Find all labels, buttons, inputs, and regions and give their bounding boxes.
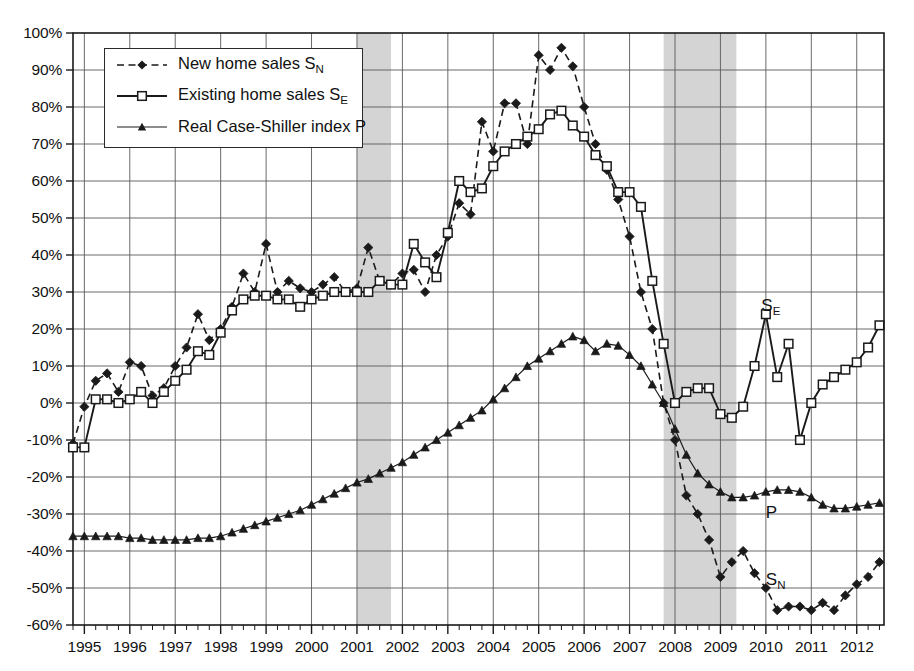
data-point-marker [444, 428, 452, 436]
data-point-marker [216, 328, 225, 337]
data-point-marker [580, 336, 588, 344]
data-point-marker [69, 443, 78, 452]
data-point-marker [182, 365, 191, 374]
data-point-marker [262, 291, 271, 300]
data-point-marker [863, 572, 872, 581]
data-point-marker [319, 291, 328, 300]
data-point-marker [693, 384, 702, 393]
annot-p: P [766, 503, 777, 523]
data-point-marker [545, 65, 554, 74]
data-point-marker [875, 321, 884, 330]
data-point-marker [818, 380, 827, 389]
data-point-marker [353, 288, 362, 297]
data-point-marker [807, 606, 816, 615]
data-point-marker [364, 288, 373, 297]
annot-text: S [761, 296, 772, 315]
data-point-marker [409, 240, 418, 249]
data-point-marker [296, 284, 305, 293]
data-point-marker [160, 388, 169, 397]
data-point-marker [455, 177, 464, 186]
data-point-marker [477, 117, 486, 126]
data-point-marker [239, 269, 248, 278]
legend-label-text: Existing home sales S [178, 85, 340, 103]
data-point-marker [466, 414, 474, 422]
data-point-marker [239, 525, 247, 533]
data-point-marker [296, 506, 304, 514]
y-axis-tick-label: 50% [0, 209, 62, 227]
data-point-marker [250, 291, 259, 300]
legend-label-P: Real Case-Shiller index P [178, 117, 366, 136]
data-point-marker [228, 306, 237, 315]
y-axis-tick-label: 90% [0, 61, 62, 79]
data-point-marker [341, 484, 349, 492]
y-axis-tick-label: 10% [0, 357, 62, 375]
data-point-marker [330, 273, 339, 282]
data-point-marker [216, 532, 224, 540]
data-point-marker [534, 125, 543, 134]
legend-label-subscript: E [340, 94, 348, 106]
data-point-marker [535, 354, 543, 362]
data-point-marker [398, 458, 406, 466]
data-point-marker [511, 99, 520, 108]
y-axis-tick-label: 100% [0, 24, 62, 42]
data-point-marker [148, 399, 157, 408]
data-point-marker [318, 280, 327, 289]
series-line-SE [73, 111, 879, 448]
data-point-marker [807, 399, 816, 408]
data-point-marker [125, 395, 134, 404]
data-point-marker [466, 188, 475, 197]
data-point-marker [228, 528, 236, 536]
data-point-marker [421, 258, 430, 267]
data-point-marker [500, 99, 509, 108]
data-point-marker [239, 295, 248, 304]
annot-sn: SN [766, 570, 786, 591]
data-point-marker [568, 121, 577, 130]
data-point-marker [636, 287, 645, 296]
data-point-marker [784, 602, 793, 611]
y-axis-tick-label: 20% [0, 320, 62, 338]
data-point-marker [80, 402, 89, 411]
y-axis-tick-label: -40% [0, 542, 62, 560]
legend-label-text: Real Case-Shiller index P [178, 117, 366, 135]
data-point-marker [330, 489, 338, 497]
data-point-marker [727, 414, 736, 423]
legend-swatch-P-icon [115, 119, 169, 135]
legend-label-SE: Existing home sales SE [178, 85, 348, 106]
annot-se: SE [761, 296, 780, 317]
data-point-marker [784, 340, 793, 349]
data-point-marker [80, 443, 89, 452]
data-point-marker [852, 358, 861, 367]
chart-legend: New home sales SNExisting home sales SER… [104, 48, 363, 148]
data-point-marker [103, 395, 112, 404]
data-point-marker [557, 340, 565, 348]
y-axis-tick-label: 40% [0, 246, 62, 264]
data-point-marker [750, 491, 758, 499]
legend-label-subscript: N [316, 63, 324, 75]
data-point-marker [137, 361, 146, 370]
data-point-marker [864, 343, 873, 352]
data-point-marker [137, 388, 146, 397]
annot-text: S [766, 570, 777, 589]
data-point-marker [637, 203, 646, 212]
data-point-marker [705, 384, 714, 393]
y-axis-tick-label: -30% [0, 505, 62, 523]
data-point-marker [500, 147, 509, 156]
data-point-marker [410, 451, 418, 459]
data-point-marker [875, 499, 883, 507]
data-point-marker [603, 162, 612, 171]
legend-item-P: Real Case-Shiller index P [105, 111, 362, 142]
data-point-marker [102, 369, 111, 378]
data-point-marker [523, 132, 532, 141]
data-point-marker [125, 358, 134, 367]
data-point-marker [171, 377, 180, 386]
series-SE [69, 106, 884, 451]
legend-label-text: New home sales S [178, 54, 316, 72]
data-point-marker [773, 606, 782, 615]
data-point-marker [341, 288, 350, 297]
data-point-marker [193, 310, 202, 319]
data-point-marker [421, 287, 430, 296]
data-point-marker [296, 303, 305, 312]
x-axis-tick-label: 2012 [827, 638, 887, 656]
data-point-marker [432, 250, 441, 259]
data-point-marker [285, 295, 294, 304]
